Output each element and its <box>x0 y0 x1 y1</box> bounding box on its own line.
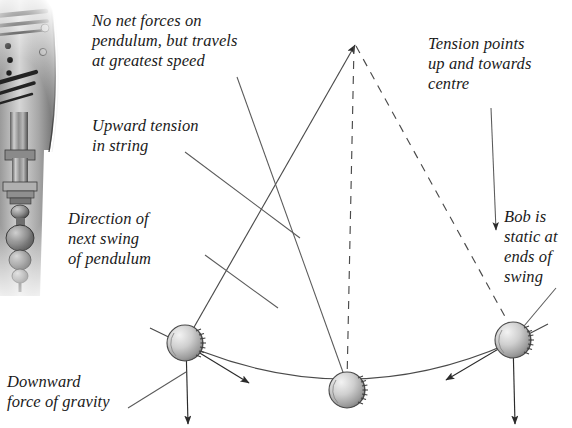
leader-downward-gravity <box>128 372 186 408</box>
diagram-canvas: No net forces on pendulum, but travels a… <box>0 0 572 428</box>
bob-group <box>167 322 534 408</box>
leader-bob-static <box>519 288 556 332</box>
label-no-net-forces: No net forces on pendulum, but travels a… <box>92 11 238 71</box>
string-left <box>185 45 355 343</box>
leader-tension-points <box>491 108 496 230</box>
leader-no-net-forces <box>237 77 344 375</box>
label-downward-gravity: Downward force of gravity <box>7 372 110 412</box>
label-direction-of-swing: Direction of next swing of pendulum <box>68 209 151 269</box>
bob-centre <box>329 372 368 408</box>
swing-arc <box>150 324 548 379</box>
leader-direction-swing <box>205 255 278 308</box>
leader-upward-tension <box>185 152 300 238</box>
bob-right <box>495 322 534 358</box>
bob-left <box>167 325 206 361</box>
label-tension-points: Tension points up and towards centre <box>428 34 531 94</box>
label-upward-tension: Upward tension in string <box>92 116 199 156</box>
label-bob-static: Bob is static at ends of swing <box>504 207 558 287</box>
string-centre <box>347 46 354 382</box>
